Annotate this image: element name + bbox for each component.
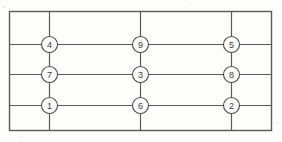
node-label-8: 8 bbox=[229, 70, 234, 80]
node-group-8[interactable]: 8 bbox=[224, 67, 240, 83]
node-group-3[interactable]: 3 bbox=[133, 67, 149, 83]
node-group-7[interactable]: 7 bbox=[42, 67, 58, 83]
node-label-3: 3 bbox=[138, 70, 143, 80]
node-label-4: 4 bbox=[47, 40, 52, 50]
node-label-5: 5 bbox=[229, 40, 234, 50]
node-group-4[interactable]: 4 bbox=[42, 37, 58, 53]
node-group-9[interactable]: 9 bbox=[133, 37, 149, 53]
diagram-canvas: 4 9 5 7 3 8 1 6 bbox=[0, 0, 282, 142]
node-group-1[interactable]: 1 bbox=[42, 98, 58, 114]
node-group-6[interactable]: 6 bbox=[133, 98, 149, 114]
scan-speck bbox=[190, 4, 191, 5]
scan-speck bbox=[3, 6, 5, 8]
node-label-7: 7 bbox=[47, 70, 52, 80]
grid-diagram: 4 9 5 7 3 8 1 6 bbox=[0, 0, 282, 142]
node-label-6: 6 bbox=[138, 101, 143, 111]
scan-speck bbox=[20, 136, 22, 137]
scan-speck bbox=[276, 122, 278, 124]
node-group-2[interactable]: 2 bbox=[224, 98, 240, 114]
node-group-5[interactable]: 5 bbox=[224, 37, 240, 53]
node-label-1: 1 bbox=[47, 101, 52, 111]
node-label-9: 9 bbox=[138, 40, 143, 50]
node-label-2: 2 bbox=[229, 101, 234, 111]
